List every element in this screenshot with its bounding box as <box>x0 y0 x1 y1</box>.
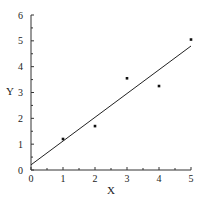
data-point <box>190 38 193 41</box>
y-tick-label: 6 <box>18 10 23 21</box>
axes: 0123450123456 <box>18 10 194 185</box>
x-tick-label: 1 <box>61 173 66 184</box>
y-tick-label: 4 <box>18 61 23 72</box>
x-axis-label: X <box>107 184 115 196</box>
data-point <box>126 77 129 80</box>
x-tick-label: 0 <box>29 173 34 184</box>
x-tick-label: 2 <box>93 173 98 184</box>
x-tick-label: 3 <box>125 173 130 184</box>
y-tick-label: 5 <box>18 35 23 46</box>
data-point <box>158 85 161 88</box>
fit-line <box>31 46 191 165</box>
scatter-chart: 0123450123456 X Y <box>0 0 201 209</box>
y-tick-label: 1 <box>18 139 23 150</box>
y-axis-label: Y <box>6 85 14 97</box>
data-points <box>62 38 193 140</box>
x-tick-label: 4 <box>157 173 162 184</box>
y-tick-label: 2 <box>18 113 23 124</box>
y-tick-label: 0 <box>18 165 23 176</box>
data-point <box>62 138 65 141</box>
data-point <box>94 125 97 128</box>
y-tick-label: 3 <box>18 87 23 98</box>
x-tick-label: 5 <box>189 173 194 184</box>
